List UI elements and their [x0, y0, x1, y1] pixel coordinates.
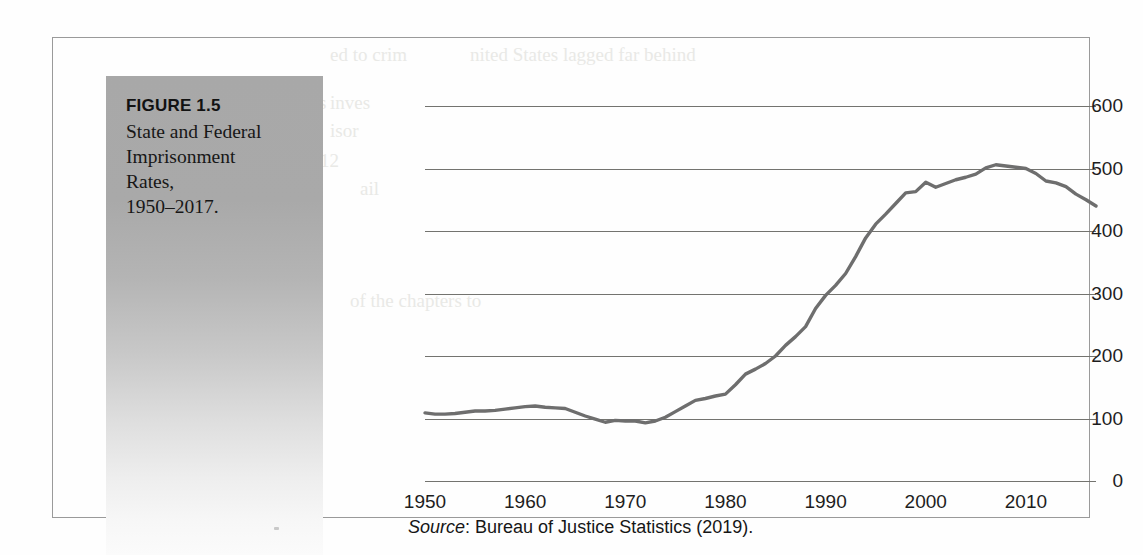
figure-number: FIGURE 1.5 [126, 96, 306, 116]
y-tick-label: 100 [1065, 408, 1123, 430]
x-tick-label: 2000 [905, 491, 947, 513]
plot-region [425, 106, 1096, 481]
source-note: Source: Bureau of Justice Statistics (20… [408, 517, 753, 538]
scan-speck [274, 527, 279, 530]
gridline [425, 481, 1096, 482]
x-tick-label: 1950 [404, 491, 446, 513]
source-separator: : [465, 517, 475, 537]
x-tick-label: 1970 [604, 491, 646, 513]
imprisonment-rate-line [425, 165, 1096, 423]
figure-title-line: State and Federal [126, 119, 306, 144]
x-tick-label: 1990 [804, 491, 846, 513]
figure-frame: FIGURE 1.5 State and FederalImprisonment… [52, 37, 1090, 518]
caption-panel: FIGURE 1.5 State and FederalImprisonment… [106, 76, 323, 555]
y-tick-label: 500 [1065, 158, 1123, 180]
y-tick-label: 200 [1065, 345, 1123, 367]
source-text: Bureau of Justice Statistics (2019). [475, 517, 753, 537]
caption-content: FIGURE 1.5 State and FederalImprisonment… [126, 96, 306, 219]
page-background: ed to crimnited States lagged far behind… [0, 0, 1143, 555]
figure-title: State and FederalImprisonmentRates,1950–… [126, 119, 306, 219]
y-tick-label: 400 [1065, 220, 1123, 242]
figure-title-line: 1950–2017. [126, 194, 306, 219]
line-series [425, 106, 1096, 481]
y-tick-label: 0 [1065, 470, 1123, 492]
x-tick-label: 1980 [704, 491, 746, 513]
source-label: Source [408, 517, 465, 537]
y-tick-label: 600 [1065, 95, 1123, 117]
chart-area: 0100200300400500600 19501960197019801990… [353, 83, 1123, 543]
y-tick-label: 300 [1065, 283, 1123, 305]
figure-title-line: Imprisonment [126, 144, 306, 169]
x-tick-label: 1960 [504, 491, 546, 513]
figure-title-line: Rates, [126, 169, 306, 194]
x-tick-label: 2010 [1005, 491, 1047, 513]
